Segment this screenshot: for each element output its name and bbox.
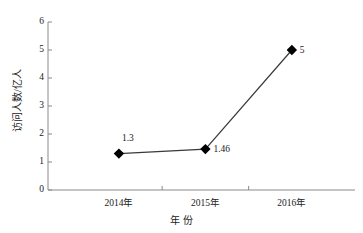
data-markers (114, 45, 297, 159)
data-point-label: 5 (300, 46, 305, 56)
x-axis-tick-label: 2014年 (104, 199, 133, 209)
data-point-label: 1.3 (122, 134, 134, 144)
y-axis-tick-marks (48, 22, 52, 190)
plot-area (0, 0, 363, 233)
axis-lines (48, 22, 355, 190)
x-axis-tick-marks (162, 186, 248, 190)
line-chart: 访问人数/亿人 0123456 2014年2015年2016年 年 份 1.31… (0, 0, 363, 233)
x-axis-tick-label: 2016年 (277, 199, 306, 209)
data-line (119, 50, 292, 154)
data-point-label: 1.46 (213, 145, 230, 155)
x-axis-title: 年 份 (0, 212, 363, 227)
x-axis-tick-label: 2015年 (191, 199, 220, 209)
data-point-marker[interactable] (114, 148, 124, 158)
